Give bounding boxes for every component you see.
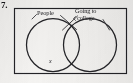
leader-tick-college-right <box>103 20 110 31</box>
element-marker-x: x <box>49 58 52 64</box>
set-label-going-to-college: Going to college <box>75 8 96 21</box>
right-set-circle <box>64 19 117 72</box>
set-label-going-to-college-line2: college <box>75 15 96 22</box>
venn-diagram-figure <box>0 0 133 83</box>
leader-tick-people-left <box>32 15 37 20</box>
set-label-people: People <box>37 10 54 17</box>
scanned-exercise-page: 7. People Going to college x <box>0 0 133 83</box>
